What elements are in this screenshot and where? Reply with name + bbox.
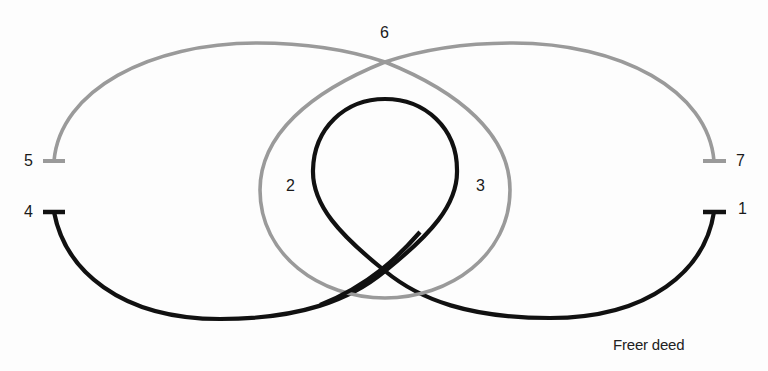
label-4: 4 [24,204,33,220]
knot-diagram: 6 5 7 4 1 2 3 Freer deed [0,0,768,371]
caption: Freer deed [613,337,684,352]
black-strand [54,99,714,319]
label-3: 3 [476,178,485,194]
black-strand-over-segment [320,232,420,305]
label-6: 6 [380,25,389,41]
label-1: 1 [738,201,747,217]
label-2: 2 [286,178,295,194]
label-7: 7 [736,153,745,169]
gray-strand [54,43,714,298]
label-5: 5 [24,153,33,169]
knot-drawing [0,0,768,371]
